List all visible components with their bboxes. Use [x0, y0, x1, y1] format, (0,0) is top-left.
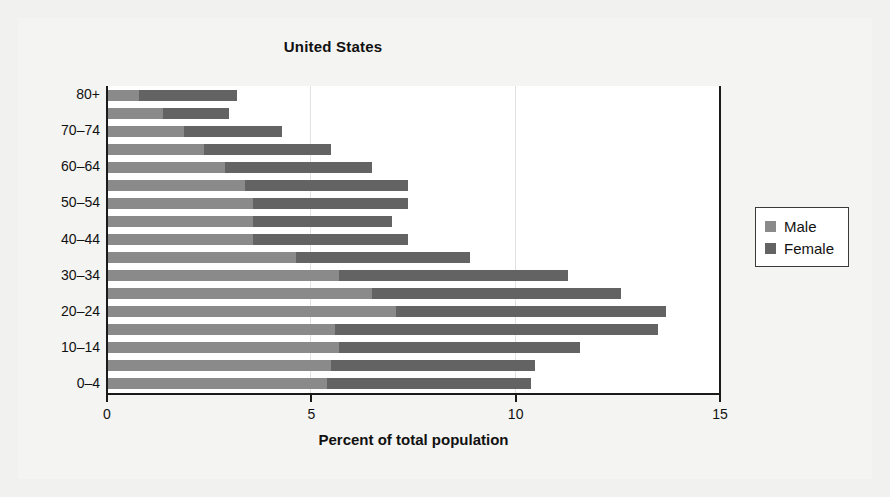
bar-segment-female: [204, 144, 331, 155]
legend-label: Male: [784, 218, 817, 235]
bar-row: [106, 216, 719, 227]
bar-segment-female: [372, 288, 621, 299]
bar-segment-male: [106, 90, 139, 101]
bar-segment-female: [163, 108, 228, 119]
x-tick-mark: [719, 395, 721, 402]
bar-row: [106, 108, 719, 119]
bar-segment-female: [339, 270, 568, 281]
bar-segment-male: [106, 144, 204, 155]
bar-segment-female: [139, 90, 237, 101]
bar-segment-male: [106, 288, 372, 299]
y-axis-tick-label: 50–54: [61, 194, 100, 210]
plot-area: [106, 86, 719, 393]
bar-row: [106, 162, 719, 173]
bar-segment-female: [253, 234, 408, 245]
bar-row: [106, 324, 719, 335]
x-tick-label: 0: [103, 406, 111, 422]
bar-segment-male: [106, 180, 245, 191]
chart-card: United States 051015 80+70–7460–6450–544…: [18, 18, 872, 479]
y-axis-tick-label: 60–64: [61, 158, 100, 174]
bar-row: [106, 378, 719, 389]
bar-segment-male: [106, 270, 339, 281]
y-axis-line: [106, 86, 108, 393]
bar-row: [106, 342, 719, 353]
x-tick-mark: [106, 395, 108, 402]
bar-segment-male: [106, 360, 331, 371]
legend: MaleFemale: [755, 207, 849, 267]
x-tick-mark: [310, 395, 312, 402]
x-tick-label: 15: [712, 406, 728, 422]
legend-swatch-icon: [765, 221, 776, 232]
bar-segment-female: [296, 252, 470, 263]
bar-segment-female: [339, 342, 580, 353]
x-tick-mark: [515, 395, 517, 402]
bar-row: [106, 180, 719, 191]
bar-segment-male: [106, 306, 396, 317]
bar-segment-male: [106, 252, 296, 263]
bar-row: [106, 90, 719, 101]
legend-label: Female: [784, 240, 834, 257]
bar-row: [106, 270, 719, 281]
y-axis-tick-label: 70–74: [61, 122, 100, 138]
bar-segment-female: [253, 216, 392, 227]
bar-segment-male: [106, 378, 327, 389]
x-axis-line: [106, 393, 721, 395]
bar-segment-male: [106, 108, 163, 119]
legend-item-female[interactable]: Female: [765, 237, 834, 259]
y-axis-labels: 80+70–7460–6450–5440–4430–3420–2410–140–…: [18, 18, 100, 479]
bar-segment-female: [335, 324, 658, 335]
y-axis-tick-label: 20–24: [61, 303, 100, 319]
bar-segment-male: [106, 216, 253, 227]
bar-segment-female: [327, 378, 531, 389]
figure: United States 051015 80+70–7460–6450–544…: [0, 0, 890, 497]
y-axis-tick-label: 30–34: [61, 267, 100, 283]
y-axis-tick-label: 10–14: [61, 339, 100, 355]
x-tick-label: 5: [307, 406, 315, 422]
bar-row: [106, 306, 719, 317]
x-axis-title: Percent of total population: [106, 431, 721, 448]
bar-row: [106, 126, 719, 137]
bar-segment-male: [106, 324, 335, 335]
bar-segment-female: [245, 180, 408, 191]
plot-right-border: [719, 86, 721, 395]
y-axis-tick-label: 0–4: [77, 375, 100, 391]
bar-segment-female: [184, 126, 282, 137]
bar-segment-male: [106, 162, 225, 173]
bar-segment-male: [106, 198, 253, 209]
bar-row: [106, 198, 719, 209]
bar-row: [106, 252, 719, 263]
bar-row: [106, 144, 719, 155]
bar-segment-female: [253, 198, 408, 209]
bar-segment-male: [106, 234, 253, 245]
bar-segment-female: [331, 360, 535, 371]
y-axis-tick-label: 80+: [76, 86, 100, 102]
bar-row: [106, 288, 719, 299]
bar-segment-female: [225, 162, 372, 173]
bar-segment-female: [396, 306, 666, 317]
bar-segment-male: [106, 342, 339, 353]
legend-swatch-icon: [765, 243, 776, 254]
bar-row: [106, 360, 719, 371]
x-tick-label: 10: [508, 406, 524, 422]
y-axis-tick-label: 40–44: [61, 231, 100, 247]
legend-item-male[interactable]: Male: [765, 215, 834, 237]
bar-segment-male: [106, 126, 184, 137]
page-title: United States: [18, 38, 648, 55]
bar-row: [106, 234, 719, 245]
